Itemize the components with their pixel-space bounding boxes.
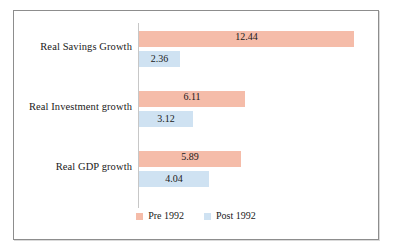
chart-frame: Real Savings Growth 12.44 2.36 Real Inve… bbox=[13, 10, 379, 240]
plot-area: Real Savings Growth 12.44 2.36 Real Inve… bbox=[14, 11, 378, 239]
bar-group-real-investment-growth: Real Investment growth 6.11 3.12 bbox=[14, 89, 378, 129]
category-label-2: Real GDP growth bbox=[14, 159, 132, 175]
legend-item-pre-1992[interactable]: Pre 1992 bbox=[136, 211, 184, 221]
bar-pair-0: 12.44 2.36 bbox=[139, 29, 378, 69]
bar-pair-2: 5.89 4.04 bbox=[139, 149, 378, 189]
bar-pair-1: 6.11 3.12 bbox=[139, 89, 378, 129]
legend-label-pre-1992: Pre 1992 bbox=[148, 211, 184, 221]
bar-value-pre-1992-1: 6.11 bbox=[139, 89, 245, 105]
legend-item-post-1992[interactable]: Post 1992 bbox=[204, 211, 256, 221]
bar-value-post-1992-2: 4.04 bbox=[139, 171, 209, 187]
screenshot-root: Real Savings Growth 12.44 2.36 Real Inve… bbox=[0, 0, 393, 251]
category-label-0: Real Savings Growth bbox=[14, 39, 132, 55]
legend-swatch-pre-1992 bbox=[136, 213, 143, 220]
chart-legend: Pre 1992 Post 1992 bbox=[14, 211, 378, 221]
bar-group-real-savings-growth: Real Savings Growth 12.44 2.36 bbox=[14, 29, 378, 69]
legend-label-post-1992: Post 1992 bbox=[216, 211, 256, 221]
bar-value-pre-1992-2: 5.89 bbox=[139, 149, 241, 165]
bar-value-pre-1992-0: 12.44 bbox=[139, 29, 354, 45]
bar-group-real-gdp-growth: Real GDP growth 5.89 4.04 bbox=[14, 149, 378, 189]
bar-value-post-1992-1: 3.12 bbox=[139, 111, 193, 127]
category-label-1: Real Investment growth bbox=[14, 99, 132, 115]
legend-swatch-post-1992 bbox=[204, 213, 211, 220]
bar-value-post-1992-0: 2.36 bbox=[139, 51, 180, 67]
